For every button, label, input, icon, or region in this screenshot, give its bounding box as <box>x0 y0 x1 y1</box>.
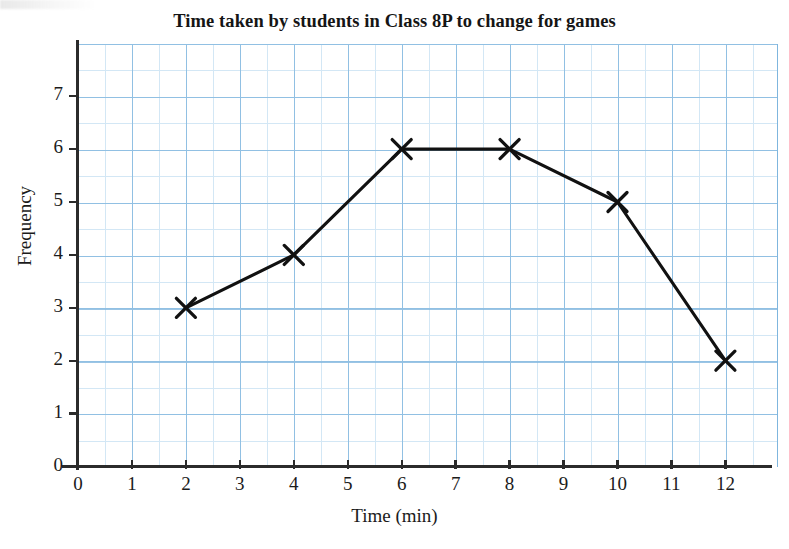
x-tick-label-12: 12 <box>705 473 745 495</box>
y-tick-label-4: 4 <box>33 242 63 264</box>
x-tick-label-0: 0 <box>58 473 98 495</box>
y-tick-label-3: 3 <box>33 295 63 317</box>
x-tick-3 <box>239 460 241 469</box>
x-tick-label-9: 9 <box>544 473 584 495</box>
x-tick-11 <box>670 460 672 469</box>
y-tick-label-1: 1 <box>33 401 63 423</box>
x-axis-line <box>62 465 772 468</box>
x-tick-12 <box>724 460 726 469</box>
x-tick-7 <box>454 460 456 469</box>
x-tick-label-6: 6 <box>382 473 422 495</box>
chart-canvas: Time taken by students in Class 8P to ch… <box>0 0 789 549</box>
x-tick-label-11: 11 <box>651 473 691 495</box>
y-tick-3 <box>69 307 78 309</box>
x-tick-1 <box>131 460 133 469</box>
y-tick-2 <box>69 360 78 362</box>
x-tick-label-2: 2 <box>166 473 206 495</box>
y-tick-4 <box>69 254 78 256</box>
y-tick-label-6: 6 <box>33 136 63 158</box>
x-tick-0 <box>77 460 79 469</box>
y-tick-6 <box>69 148 78 150</box>
y-tick-label-2: 2 <box>33 348 63 370</box>
plot-area <box>78 44 778 467</box>
scan-artifact <box>0 0 96 9</box>
y-tick-7 <box>69 95 78 97</box>
x-tick-label-3: 3 <box>220 473 260 495</box>
x-tick-label-7: 7 <box>436 473 476 495</box>
x-axis-title: Time (min) <box>0 505 789 527</box>
x-tick-6 <box>401 460 403 469</box>
x-tick-label-10: 10 <box>598 473 638 495</box>
x-tick-2 <box>185 460 187 469</box>
y-tick-label-7: 7 <box>33 83 63 105</box>
x-tick-8 <box>508 460 510 469</box>
y-axis-title: Frequency <box>14 146 36 306</box>
x-tick-label-1: 1 <box>112 473 152 495</box>
x-tick-5 <box>347 460 349 469</box>
grid-major-lines <box>78 44 778 467</box>
x-tick-label-4: 4 <box>274 473 314 495</box>
x-tick-label-5: 5 <box>328 473 368 495</box>
y-tick-5 <box>69 201 78 203</box>
x-tick-label-8: 8 <box>490 473 530 495</box>
y-tick-label-5: 5 <box>33 189 63 211</box>
x-tick-10 <box>616 460 618 469</box>
x-tick-9 <box>562 460 564 469</box>
x-tick-4 <box>293 460 295 469</box>
y-tick-1 <box>69 412 78 414</box>
chart-title: Time taken by students in Class 8P to ch… <box>0 11 789 32</box>
